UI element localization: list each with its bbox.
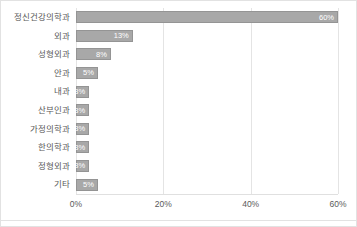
category-label: 정신건강의학과 xyxy=(14,13,70,22)
bar-row: 정신건강의학과60% xyxy=(76,8,338,27)
category-label: 산부인과 xyxy=(38,106,70,115)
bar-value-label: 5% xyxy=(83,69,97,77)
category-label: 내과 xyxy=(54,87,70,96)
bar: 8% xyxy=(76,48,111,60)
x-tick-label: 20% xyxy=(155,199,172,209)
category-label: 정형외과 xyxy=(38,162,70,171)
bar-row: 가정의학과3% xyxy=(76,120,338,139)
bar-value-label: 3% xyxy=(74,125,88,133)
bar-value-label: 8% xyxy=(96,51,110,59)
x-tick-label: 60% xyxy=(329,199,346,209)
x-tick-label: 0% xyxy=(70,199,82,209)
bar-value-label: 3% xyxy=(74,107,88,115)
x-tick-label: 40% xyxy=(242,199,259,209)
axis-baseline xyxy=(76,194,338,195)
bar-value-label: 3% xyxy=(74,162,88,170)
category-label: 한의학과 xyxy=(38,143,70,152)
bar: 3% xyxy=(76,160,89,172)
bottom-divider xyxy=(1,220,356,221)
plot-area: 정신건강의학과60%외과13%성형외과8%안과5%내과3%산부인과3%가정의학과… xyxy=(76,8,338,194)
bar-row: 한의학과3% xyxy=(76,138,338,157)
category-label: 안과 xyxy=(54,69,70,78)
bar-row: 외과13% xyxy=(76,27,338,46)
bar: 13% xyxy=(76,30,133,42)
bar: 3% xyxy=(76,86,89,98)
bar-value-label: 13% xyxy=(114,32,132,40)
bar: 3% xyxy=(76,141,89,153)
bar-row: 산부인과3% xyxy=(76,101,338,120)
bar: 3% xyxy=(76,104,89,116)
x-axis: 0%20%40%60% xyxy=(1,197,357,217)
bar: 5% xyxy=(76,179,98,191)
category-label: 외과 xyxy=(54,32,70,41)
category-label: 기타 xyxy=(54,180,70,189)
bar-value-label: 3% xyxy=(74,88,88,96)
category-label: 성형외과 xyxy=(38,50,70,59)
category-label: 가정의학과 xyxy=(30,125,70,134)
bar-chart: 정신건강의학과60%외과13%성형외과8%안과5%내과3%산부인과3%가정의학과… xyxy=(0,0,357,227)
bar: 60% xyxy=(76,11,338,23)
bar-row: 성형외과8% xyxy=(76,45,338,64)
bar-value-label: 60% xyxy=(319,14,337,22)
bar-row: 내과3% xyxy=(76,82,338,101)
bar-value-label: 5% xyxy=(83,181,97,189)
bar-row: 기타5% xyxy=(76,175,338,194)
bar: 3% xyxy=(76,123,89,135)
bar: 5% xyxy=(76,67,98,79)
bar-row: 정형외과3% xyxy=(76,157,338,176)
bar-value-label: 3% xyxy=(74,144,88,152)
gridline-60pct xyxy=(338,8,339,194)
bar-row: 안과5% xyxy=(76,64,338,83)
